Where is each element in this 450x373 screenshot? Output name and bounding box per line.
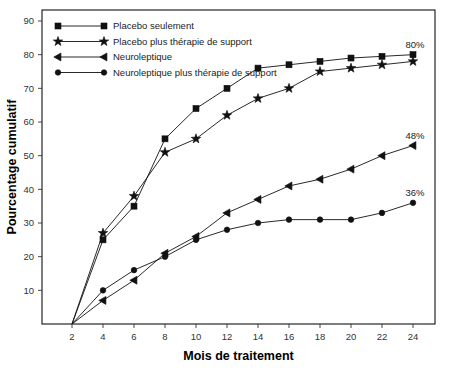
y-axis-title: Pourcentage cumulatif: [5, 99, 19, 235]
data-point-marker: [254, 195, 261, 203]
x-tick-label: 8: [162, 331, 167, 342]
y-tick-label: 50: [23, 150, 34, 161]
data-point-marker: [162, 254, 168, 260]
x-tick-label: 2: [69, 331, 74, 342]
legend-label: Neuroleptique: [113, 51, 172, 62]
data-point-marker: [377, 60, 387, 69]
data-point-marker: [315, 67, 325, 76]
x-tick-label: 18: [315, 331, 326, 342]
legend-marker-end: [100, 53, 107, 61]
x-tick-label: 16: [284, 331, 295, 342]
data-point-marker: [193, 106, 199, 112]
data-point-marker: [284, 83, 294, 92]
data-point-marker: [253, 93, 263, 102]
legend-item-4[interactable]: Neuroleptique plus thérapie de support: [55, 67, 277, 78]
series-line: [72, 146, 413, 324]
data-point-marker: [378, 152, 385, 160]
data-point-marker: [346, 63, 356, 72]
x-tick-label: 20: [346, 331, 357, 342]
legend-label: Placebo plus thérapie de support: [113, 36, 252, 47]
series-line: [72, 203, 413, 324]
legend-marker-start: [54, 53, 61, 61]
x-axis-title: Mois de traitement: [183, 349, 294, 363]
data-point-marker: [193, 237, 199, 243]
y-tick-label: 90: [23, 15, 34, 26]
data-point-marker: [286, 62, 292, 68]
data-point-marker: [347, 165, 354, 173]
data-point-marker: [316, 175, 323, 183]
y-tick-label: 40: [23, 184, 34, 195]
data-point-marker: [408, 56, 418, 65]
x-tick-label: 4: [100, 331, 105, 342]
series-1: [72, 52, 416, 324]
data-point-marker: [348, 55, 354, 61]
x-tick-label: 24: [408, 331, 419, 342]
series-2: [72, 56, 418, 324]
y-tick-label: 20: [23, 251, 34, 262]
series-3: [72, 142, 416, 324]
y-tick-label: 10: [23, 285, 34, 296]
x-tick-label: 12: [222, 331, 233, 342]
legend-marker-end: [99, 37, 109, 46]
y-tick-label: 80: [23, 49, 34, 60]
data-point-marker: [410, 200, 416, 206]
x-tick-label: 6: [131, 331, 136, 342]
data-point-marker: [224, 227, 230, 233]
x-tick-label: 22: [377, 331, 388, 342]
data-point-marker: [160, 147, 170, 156]
legend-item-3[interactable]: Neuroleptique: [54, 51, 172, 62]
y-tick-label: 70: [23, 83, 34, 94]
legend-item-1[interactable]: Placebo seulement: [55, 20, 194, 31]
data-point-marker: [162, 136, 168, 142]
legend-marker-end: [101, 70, 107, 76]
data-point-marker: [131, 267, 137, 273]
x-tick-label: 14: [253, 331, 264, 342]
data-point-marker: [224, 85, 230, 91]
series-4: [72, 200, 416, 324]
data-point-marker: [409, 142, 416, 150]
legend-marker-start: [55, 70, 61, 76]
chart-legend: Placebo seulementPlacebo plus thérapie d…: [53, 20, 277, 78]
data-point-marker: [317, 217, 323, 223]
legend-marker-start: [53, 37, 63, 46]
legend-marker-end: [101, 23, 107, 29]
data-point-marker: [286, 217, 292, 223]
series-line: [72, 61, 413, 324]
data-point-marker: [317, 58, 323, 64]
y-tick-label: 30: [23, 217, 34, 228]
x-tick-label: 10: [191, 331, 202, 342]
legend-label: Neuroleptique plus thérapie de support: [113, 67, 277, 78]
data-point-marker: [348, 217, 354, 223]
data-point-marker: [379, 210, 385, 216]
series-end-annotation: 80%: [405, 39, 425, 50]
data-point-marker: [285, 182, 292, 190]
data-point-marker: [379, 53, 385, 59]
chart-svg-canvas: 10203040506070809024681012141618202224Mo…: [0, 0, 450, 373]
series-line: [72, 55, 413, 324]
cumulative-percentage-chart: 10203040506070809024681012141618202224Mo…: [0, 0, 450, 373]
legend-marker-start: [55, 23, 61, 29]
legend-item-2[interactable]: Placebo plus thérapie de support: [53, 36, 252, 47]
legend-label: Placebo seulement: [113, 20, 194, 31]
data-point-marker: [100, 288, 106, 294]
data-point-marker: [191, 134, 201, 143]
y-tick-label: 60: [23, 116, 34, 127]
data-point-marker: [131, 203, 137, 209]
data-point-marker: [130, 276, 137, 284]
series-end-annotation: 36%: [405, 187, 425, 198]
series-end-annotation: 48%: [405, 130, 425, 141]
data-point-marker: [255, 220, 261, 226]
